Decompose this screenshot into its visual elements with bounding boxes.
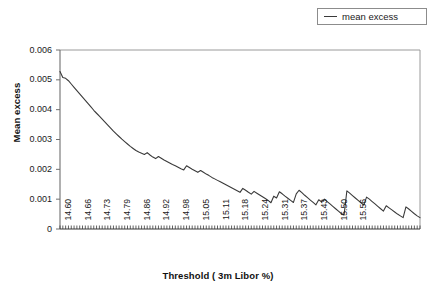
x-tick-label: 14.92	[162, 199, 171, 233]
y-tick-label: 0.001	[12, 195, 52, 204]
x-tick-label: 15.56	[359, 199, 368, 233]
x-tick-label: 14.86	[143, 199, 152, 233]
x-tick-label: 14.79	[123, 199, 132, 233]
x-tick-label: 15.24	[261, 199, 270, 233]
y-axis-ticks	[56, 50, 60, 229]
x-tick-label: 15.37	[300, 199, 309, 233]
chart-figure: mean excess 00.0010.0020.0030.0040.0050.…	[0, 0, 436, 293]
x-tick-label: 14.98	[182, 199, 191, 233]
x-tick-label: 15.50	[340, 199, 349, 233]
x-tick-label: 15.43	[320, 199, 329, 233]
x-tick-label: 15.05	[202, 199, 211, 233]
x-tick-label: 15.31	[281, 199, 290, 233]
y-tick-label: 0.006	[12, 46, 52, 55]
x-tick-label: 15.11	[222, 199, 231, 233]
y-axis-title: Mean excess	[11, 73, 22, 153]
y-tick-label: 0.002	[12, 165, 52, 174]
x-tick-label: 14.73	[103, 199, 112, 233]
x-axis-title: Threshold ( 3m Libor %)	[0, 270, 436, 281]
x-tick-label: 14.66	[84, 199, 93, 233]
x-tick-label: 14.60	[64, 199, 73, 233]
x-tick-label: 15.18	[241, 199, 250, 233]
plot-area: 00.0010.0020.0030.0040.0050.006 14.6014.…	[0, 0, 436, 293]
series-line-mean-excess	[60, 71, 420, 217]
y-tick-label: 0	[12, 225, 52, 234]
chart-canvas	[0, 0, 436, 293]
